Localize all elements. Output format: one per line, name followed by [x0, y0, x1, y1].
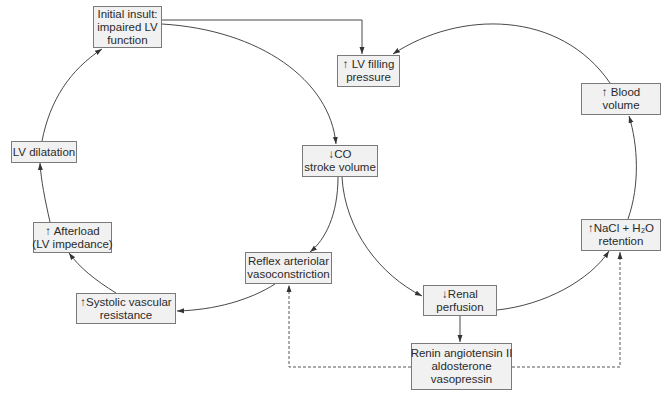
node-text: ↑ Afterload [45, 225, 99, 238]
node-text: LV dilatation [13, 146, 75, 159]
node-text: ↓Renal [442, 288, 478, 301]
edge-renin-nacl [512, 252, 620, 367]
node-text: function [107, 34, 147, 47]
node-text: impaired LV [97, 21, 158, 34]
node-initial-insult: Initial insult: impaired LV function [93, 6, 162, 48]
node-text: ↑ LV filling [343, 58, 395, 71]
node-renin-angiotensin: Renin angiotensin II aldosterone vasopre… [411, 343, 512, 390]
node-renal-perfusion: ↓Renal perfusion [423, 285, 497, 316]
node-text: stroke volume [304, 161, 376, 174]
edge-renin-reflex [289, 285, 411, 367]
node-text: vasoconstriction [247, 268, 329, 281]
node-text: perfusion [436, 301, 483, 314]
node-text: Initial insult: [97, 8, 157, 21]
edge-blood-lvfill [393, 24, 610, 83]
node-text: Reflex arteriolar [248, 255, 329, 268]
node-text: ↓CO [329, 148, 352, 161]
node-text: resistance [100, 309, 152, 322]
connector-lines [0, 0, 668, 398]
node-co-stroke-volume: ↓CO stroke volume [302, 145, 378, 177]
edge-co-renal [342, 177, 422, 296]
node-nacl-retention: ↑NaCl + H₂O retention [581, 219, 661, 251]
edge-afterload-lvdil [40, 163, 50, 222]
edge-initial-co [162, 24, 336, 144]
node-text: ↑ Blood [602, 86, 640, 99]
node-text: Renin angiotensin II [411, 347, 513, 360]
node-text: aldosterone [431, 360, 491, 373]
node-lv-filling-pressure: ↑ LV filling pressure [337, 55, 400, 87]
node-text: ↑Systolic vascular [80, 296, 171, 309]
edge-lvdil-initial [42, 49, 102, 141]
node-afterload: ↑ Afterload (LV impedance) [33, 222, 112, 253]
node-text: pressure [346, 71, 391, 84]
node-lv-dilatation: LV dilatation [11, 141, 77, 163]
node-text: (LV impedance) [32, 238, 112, 251]
edge-nacl-blood [628, 116, 636, 219]
node-text: ↑NaCl + H₂O [588, 222, 654, 235]
node-reflex-vasoconstriction: Reflex arteriolar vasoconstriction [245, 252, 332, 284]
edge-co-reflex [310, 177, 338, 252]
edge-reflex-systolic [177, 284, 275, 311]
edge-renal-nacl [497, 251, 609, 310]
edge-systolic-afterload [69, 253, 116, 293]
node-text: volume [602, 99, 639, 112]
node-text: vasopressin [431, 373, 492, 386]
node-text: retention [599, 235, 644, 248]
node-blood-volume: ↑ Blood volume [581, 83, 661, 115]
node-systolic-resistance: ↑Systolic vascular resistance [76, 293, 176, 324]
